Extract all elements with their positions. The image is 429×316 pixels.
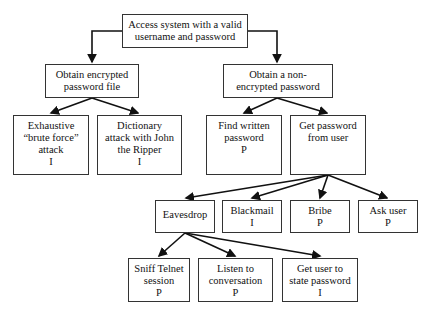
- node-blackmail: Blackmail I: [222, 200, 282, 233]
- node-ask-user: Ask user P: [358, 200, 418, 233]
- node-from-user: Get password from user: [290, 115, 366, 175]
- node-bribe: Bribe P: [290, 200, 350, 233]
- node-root: Access system with a valid username and …: [122, 14, 248, 48]
- node-sniff-telnet: Sniff Telnet session P: [128, 258, 190, 302]
- node-listen: Listen to conversation P: [198, 258, 273, 302]
- node-non-encrypted: Obtain a non- encrypted password: [223, 64, 333, 98]
- node-eavesdrop: Eavesdrop: [155, 200, 215, 233]
- attack-tree-diagram: Access system with a valid username and …: [0, 0, 429, 316]
- node-encrypted-file: Obtain encrypted password file: [45, 64, 139, 98]
- node-find-written: Find written password P: [206, 115, 282, 175]
- node-dictionary: Dictionary attack with John the Ripper I: [97, 115, 182, 175]
- node-state-password: Get user to state password I: [282, 258, 358, 302]
- node-brute-force: Exhaustive “brute force” attack I: [13, 115, 89, 175]
